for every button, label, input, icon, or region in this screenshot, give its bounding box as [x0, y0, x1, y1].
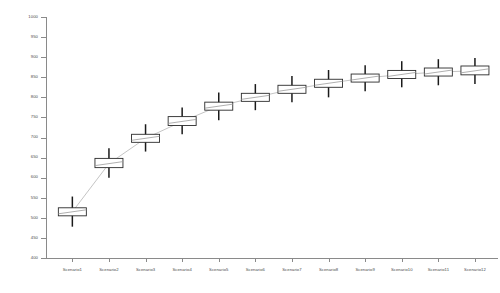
box-plot-item — [58, 197, 86, 227]
plot-area: 1000950900850800750700650600550500450400… — [0, 0, 500, 293]
box-plot-item — [132, 124, 160, 151]
box-plot-item — [461, 58, 489, 84]
box-plot-figure: 1000950900850800750700650600550500450400… — [0, 0, 500, 293]
box-plot-item — [351, 65, 379, 91]
box-plot-item — [315, 70, 343, 97]
box-plot-item — [388, 61, 416, 87]
box-plot-item — [241, 84, 269, 110]
box-plot-series — [0, 0, 500, 293]
box-plot-item — [205, 93, 233, 121]
box-plot-item — [95, 148, 123, 177]
box-plot-item — [424, 59, 452, 85]
box-plot-item — [278, 76, 306, 102]
box-rect — [95, 158, 123, 167]
box-plot-item — [168, 107, 196, 134]
